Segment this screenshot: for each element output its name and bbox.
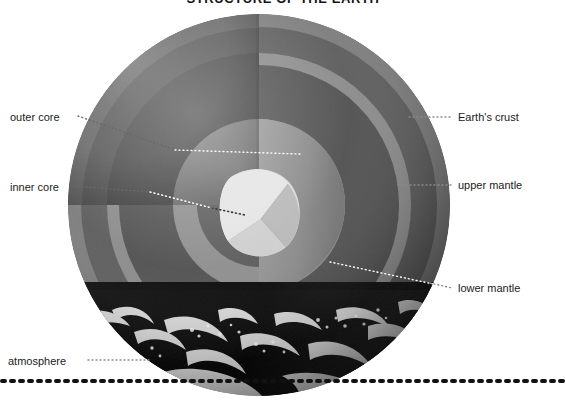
sphere-body — [68, 14, 450, 396]
label-atmosphere: atmosphere — [8, 355, 66, 367]
label-inner-core: inner core — [10, 181, 59, 193]
sphere-grain — [68, 14, 450, 396]
label-upper-mantle: upper mantle — [458, 179, 522, 191]
earth-cutaway-illustration — [68, 14, 450, 396]
label-lower-mantle: lower mantle — [458, 282, 520, 294]
page-title: STRUCTURE OF THE EARTH — [0, 0, 566, 6]
label-earths-crust: Earth's crust — [458, 111, 519, 123]
label-outer-core: outer core — [10, 111, 60, 123]
diagram-canvas: STRUCTURE OF THE EARTH — [0, 0, 566, 403]
bottom-dotted-rule — [0, 377, 566, 385]
earth-globe-svg — [68, 14, 450, 396]
